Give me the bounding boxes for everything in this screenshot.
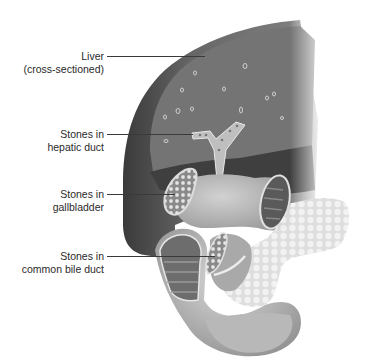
- label-liver-line1: Liver: [23, 50, 104, 63]
- leader-line-liver: [107, 56, 205, 57]
- label-hepatic-duct-line2: hepatic duct: [47, 141, 104, 154]
- label-liver-line2: (cross-sectioned): [23, 63, 104, 76]
- label-gallbladder-line2: gallbladder: [53, 201, 104, 214]
- label-common-bile-duct: Stones in common bile duct: [22, 250, 104, 276]
- leader-line-hepatic-duct: [107, 134, 193, 135]
- anatomy-illustration: Liver (cross-sectioned) Stones in hepati…: [0, 0, 365, 364]
- label-common-bile-duct-line1: Stones in: [22, 250, 104, 263]
- label-common-bile-duct-line2: common bile duct: [22, 263, 104, 276]
- label-gallbladder-line1: Stones in: [53, 188, 104, 201]
- label-hepatic-duct-line1: Stones in: [47, 128, 104, 141]
- leader-line-common-bile-duct: [107, 256, 215, 257]
- label-liver: Liver (cross-sectioned): [23, 50, 104, 76]
- label-hepatic-duct: Stones in hepatic duct: [47, 128, 104, 154]
- label-gallbladder: Stones in gallbladder: [53, 188, 104, 214]
- leader-line-gallbladder: [107, 194, 175, 195]
